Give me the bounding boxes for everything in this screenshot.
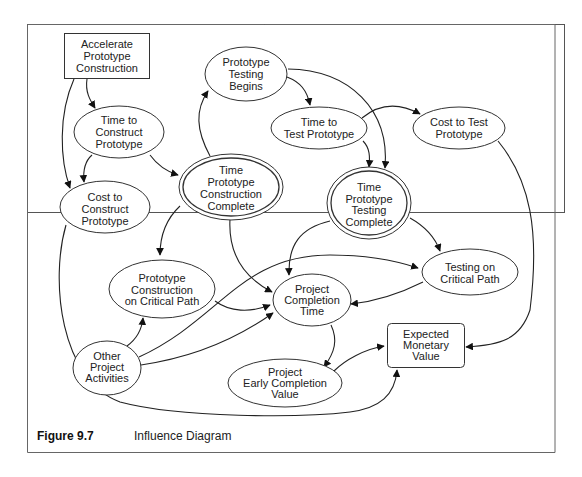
edge-early-value-expected — [334, 346, 384, 371]
svg-text:Time: Time — [219, 164, 243, 176]
svg-text:Value: Value — [412, 350, 439, 362]
svg-text:Accelerate: Accelerate — [81, 38, 133, 50]
edge-time-test-time-test-complete — [363, 141, 369, 167]
svg-text:Cost to Test: Cost to Test — [430, 116, 488, 128]
edge-cost-test-expected — [466, 141, 534, 347]
node-time-to-construct-prototype[interactable]: Time to Construct Prototype — [74, 106, 164, 158]
edge-accelerate-time-construct — [87, 79, 95, 108]
edge-testing-begins-time-test — [287, 77, 310, 105]
svg-text:Prototype: Prototype — [83, 50, 130, 62]
svg-text:Testing on: Testing on — [445, 261, 495, 273]
svg-text:Prototype: Prototype — [138, 272, 185, 284]
svg-text:Test Prototype: Test Prototype — [284, 128, 354, 140]
edge-time-construct-time-complete — [150, 155, 178, 175]
edge-completion-early-value — [324, 325, 335, 367]
edge-other-completion-time — [141, 313, 273, 365]
svg-text:Testing: Testing — [352, 204, 387, 216]
figure-title: Influence Diagram — [134, 429, 231, 443]
svg-text:Value: Value — [271, 388, 298, 400]
edge-test-complete-testing-critical — [410, 218, 440, 251]
edge-time-construct-cost-construct — [84, 155, 92, 182]
svg-text:Time: Time — [357, 181, 381, 193]
svg-text:Prototype: Prototype — [81, 215, 128, 227]
svg-text:Complete: Complete — [207, 200, 254, 212]
node-project-completion-time[interactable]: Project Completion Time — [273, 274, 351, 326]
svg-text:Construct: Construct — [95, 126, 142, 138]
svg-text:Testing: Testing — [229, 68, 264, 80]
node-other-project-activities[interactable]: Other Project Activities — [73, 341, 141, 395]
nodes: Accelerate Prototype Construction Time t… — [60, 34, 518, 408]
edge-other-constr-critical — [127, 318, 143, 346]
edge-constr-complete-completion-time — [230, 219, 272, 292]
node-cost-to-test-prototype[interactable]: Cost to Test Prototype — [413, 107, 505, 149]
node-time-prototype-testing-complete[interactable]: Time Prototype Testing Complete — [327, 167, 411, 239]
edge-accelerate-cost-construct — [62, 79, 74, 188]
svg-text:Time to: Time to — [101, 114, 137, 126]
svg-text:Construction: Construction — [76, 62, 138, 74]
node-testing-on-critical-path[interactable]: Testing on Critical Path — [422, 249, 518, 295]
edge-constr-complete-testing-begins — [199, 91, 210, 156]
node-time-to-test-prototype[interactable]: Time to Test Prototype — [271, 107, 367, 149]
svg-text:on Critical Path: on Critical Path — [125, 295, 200, 307]
edge-testing-critical-completion-time — [351, 282, 423, 304]
svg-text:Complete: Complete — [345, 216, 392, 228]
svg-text:Critical Path: Critical Path — [440, 273, 499, 285]
svg-text:Prototype: Prototype — [435, 128, 482, 140]
node-cost-to-construct-prototype[interactable]: Cost to Construct Prototype — [60, 181, 150, 233]
node-prototype-testing-begins[interactable]: Prototype Testing Begins — [205, 47, 287, 101]
svg-text:Activities: Activities — [85, 372, 129, 384]
svg-text:Cost to: Cost to — [88, 191, 123, 203]
svg-text:Time to: Time to — [301, 116, 337, 128]
svg-text:Prototype: Prototype — [222, 56, 269, 68]
edge-constr-complete-constr-critical — [160, 206, 180, 255]
svg-text:Construction: Construction — [200, 188, 262, 200]
figure-number: Figure 9.7 — [37, 429, 94, 443]
svg-text:Construct: Construct — [81, 203, 128, 215]
node-prototype-construction-on-critical-path[interactable]: Prototype Construction on Critical Path — [109, 260, 215, 318]
node-time-prototype-construction-complete[interactable]: Time Prototype Construction Complete — [179, 154, 283, 220]
node-accelerate-prototype-construction[interactable]: Accelerate Prototype Construction — [65, 34, 150, 79]
edge-constr-critical-completion-time — [215, 301, 270, 310]
svg-text:Time: Time — [300, 305, 324, 317]
edge-test-complete-completion-time — [289, 221, 330, 275]
svg-text:Prototype: Prototype — [95, 138, 142, 150]
node-expected-monetary-value[interactable]: Expected Monetary Value — [388, 324, 465, 368]
svg-text:Prototype: Prototype — [207, 176, 254, 188]
influence-diagram: Accelerate Prototype Construction Time t… — [0, 0, 582, 477]
svg-text:Begins: Begins — [229, 80, 263, 92]
node-project-early-completion-value[interactable]: Project Early Completion Value — [228, 359, 342, 407]
